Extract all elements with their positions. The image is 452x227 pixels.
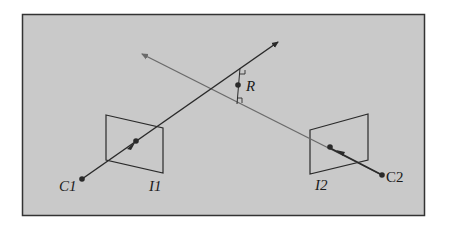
epipolar-diagram: C1 I1 I2 C2 R [0,0,452,227]
label-i2: I2 [314,177,328,193]
point-r [235,82,241,88]
label-c1: C1 [59,178,77,194]
point-c2 [379,172,385,178]
label-i1: I1 [148,178,162,194]
label-c2: C2 [386,169,404,185]
point-c1 [79,176,85,182]
image-point-2 [327,144,333,150]
label-r: R [245,78,255,94]
